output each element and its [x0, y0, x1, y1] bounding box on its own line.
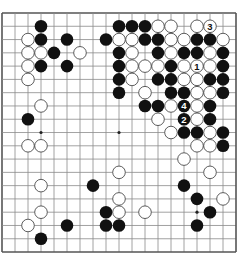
- white-stone[interactable]: [165, 47, 178, 60]
- white-stone[interactable]: [113, 33, 126, 46]
- white-stone[interactable]: [191, 86, 204, 99]
- black-stone[interactable]: [178, 126, 191, 139]
- black-stone[interactable]: [139, 100, 152, 113]
- black-stone[interactable]: [152, 73, 165, 86]
- white-stone[interactable]: [35, 100, 48, 113]
- black-stone[interactable]: [191, 219, 204, 232]
- black-stone[interactable]: [61, 33, 74, 46]
- white-stone[interactable]: [113, 193, 126, 206]
- black-stone[interactable]: [35, 232, 48, 245]
- white-stone[interactable]: [139, 86, 152, 99]
- white-stone[interactable]: [165, 33, 178, 46]
- black-stone[interactable]: [217, 60, 230, 73]
- white-stone[interactable]: [22, 33, 35, 46]
- white-stone[interactable]: [35, 206, 48, 219]
- black-stone[interactable]: [113, 73, 126, 86]
- black-stone[interactable]: [217, 86, 230, 99]
- black-stone[interactable]: [152, 33, 165, 46]
- white-stone[interactable]: [152, 113, 165, 126]
- white-stone[interactable]: [35, 179, 48, 192]
- white-stone[interactable]: [165, 126, 178, 139]
- black-stone[interactable]: [87, 179, 100, 192]
- black-stone[interactable]: [191, 193, 204, 206]
- white-stone[interactable]: [152, 20, 165, 33]
- white-stone[interactable]: [204, 86, 217, 99]
- black-stone[interactable]: [113, 20, 126, 33]
- white-stone[interactable]: [191, 113, 204, 126]
- black-stone[interactable]: [139, 33, 152, 46]
- black-stone[interactable]: [204, 73, 217, 86]
- white-stone[interactable]: [178, 153, 191, 166]
- black-stone[interactable]: [100, 219, 113, 232]
- white-stone[interactable]: [22, 140, 35, 153]
- white-stone[interactable]: [191, 73, 204, 86]
- black-stone[interactable]: [61, 219, 74, 232]
- white-stone[interactable]: [204, 166, 217, 179]
- white-stone[interactable]: [113, 206, 126, 219]
- white-stone[interactable]: [22, 219, 35, 232]
- white-stone[interactable]: [113, 166, 126, 179]
- black-stone[interactable]: [113, 60, 126, 73]
- black-stone[interactable]: [100, 33, 113, 46]
- black-stone[interactable]: [35, 33, 48, 46]
- black-stone[interactable]: [139, 20, 152, 33]
- white-stone[interactable]: [126, 47, 139, 60]
- black-stone[interactable]: [152, 100, 165, 113]
- black-stone[interactable]: [217, 140, 230, 153]
- black-stone[interactable]: [178, 86, 191, 99]
- white-stone[interactable]: [204, 47, 217, 60]
- white-stone[interactable]: [22, 60, 35, 73]
- black-stone[interactable]: [204, 206, 217, 219]
- black-stone[interactable]: [22, 113, 35, 126]
- black-stone[interactable]: [61, 60, 74, 73]
- white-stone[interactable]: [74, 47, 87, 60]
- white-stone[interactable]: [126, 73, 139, 86]
- black-stone[interactable]: [204, 100, 217, 113]
- white-stone[interactable]: [204, 60, 217, 73]
- white-stone[interactable]: [165, 20, 178, 33]
- white-stone[interactable]: [191, 140, 204, 153]
- white-stone[interactable]: [152, 60, 165, 73]
- white-stone[interactable]: [204, 140, 217, 153]
- white-stone[interactable]: [139, 60, 152, 73]
- black-stone[interactable]: [178, 47, 191, 60]
- white-stone[interactable]: [22, 73, 35, 86]
- black-stone[interactable]: [191, 33, 204, 46]
- black-stone[interactable]: [217, 73, 230, 86]
- white-stone[interactable]: [126, 33, 139, 46]
- black-stone[interactable]: [113, 219, 126, 232]
- black-stone[interactable]: [217, 47, 230, 60]
- black-stone[interactable]: [126, 20, 139, 33]
- white-stone[interactable]: [191, 20, 204, 33]
- black-stone[interactable]: [217, 126, 230, 139]
- black-stone[interactable]: [100, 206, 113, 219]
- white-stone[interactable]: [165, 100, 178, 113]
- white-stone[interactable]: [204, 126, 217, 139]
- black-stone[interactable]: [204, 33, 217, 46]
- black-stone[interactable]: [191, 126, 204, 139]
- white-stone[interactable]: [178, 73, 191, 86]
- black-stone[interactable]: [204, 113, 217, 126]
- black-stone[interactable]: [113, 47, 126, 60]
- black-stone[interactable]: [165, 73, 178, 86]
- white-stone[interactable]: [22, 47, 35, 60]
- black-stone[interactable]: [48, 47, 61, 60]
- white-stone[interactable]: [217, 33, 230, 46]
- black-stone[interactable]: [165, 60, 178, 73]
- white-stone[interactable]: [217, 193, 230, 206]
- white-stone[interactable]: [139, 206, 152, 219]
- white-stone[interactable]: [126, 60, 139, 73]
- black-stone[interactable]: [165, 86, 178, 99]
- white-stone[interactable]: [191, 100, 204, 113]
- black-stone[interactable]: [152, 47, 165, 60]
- white-stone[interactable]: [35, 47, 48, 60]
- black-stone[interactable]: [35, 60, 48, 73]
- white-stone[interactable]: [178, 60, 191, 73]
- black-stone[interactable]: [113, 86, 126, 99]
- black-stone[interactable]: [35, 20, 48, 33]
- go-board[interactable]: 1234: [0, 0, 245, 263]
- black-stone[interactable]: [178, 179, 191, 192]
- white-stone[interactable]: [35, 140, 48, 153]
- white-stone[interactable]: [178, 33, 191, 46]
- black-stone[interactable]: [191, 47, 204, 60]
